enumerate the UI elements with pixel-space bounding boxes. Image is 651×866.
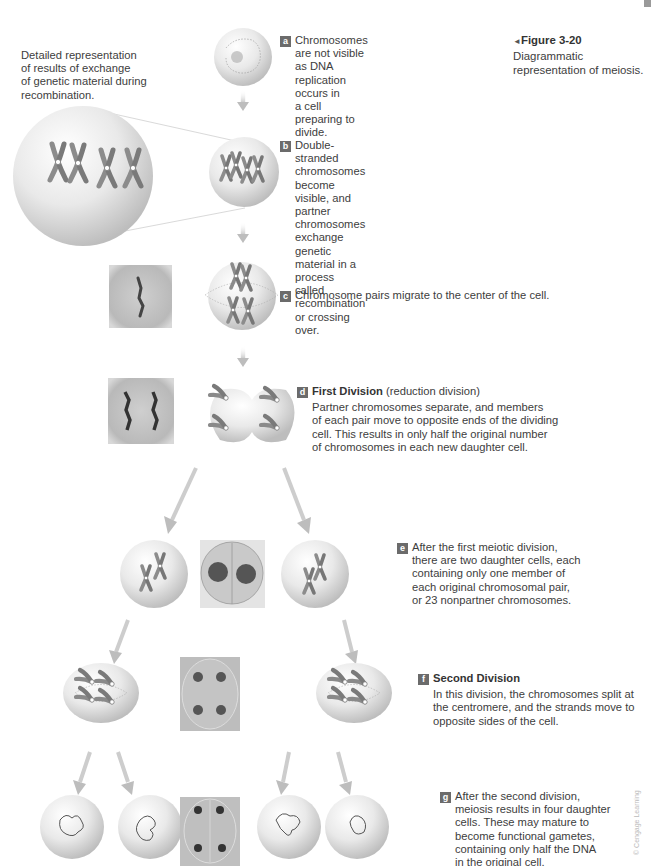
step-badge: a [280,36,291,47]
step-line: Partner chromosomes separate, and member… [312,401,558,414]
step-d: d First Division (reduction division) Pa… [297,385,312,398]
step-line: After the first meiotic division, [412,541,581,554]
step-c: c Chromosome pairs migrate to the center… [280,289,295,302]
step-badge: c [280,291,291,302]
step-f: f Second Division In this division, the … [418,672,433,685]
caption-line-1: Diagrammatic [513,50,583,62]
step-line: In this division, the chromosomes split … [433,688,634,701]
step-title: First Division [312,385,383,397]
figure-caption: ◄Figure 3-20 Diagrammatic representation… [513,33,651,77]
step-title: Second Division [433,672,520,684]
step-line: become functional gametes, [455,830,610,843]
step-line: each original chromosomal pair, [412,581,581,594]
step-g: g After the second division, meiosis res… [440,790,455,803]
step-line: containing only half the DNA [455,843,610,856]
step-line: opposite sides of the cell. [433,715,634,728]
step-badge: b [280,141,291,152]
step-badge: e [397,543,408,554]
inset-note-line: of genetic material during [21,75,147,88]
inset-note: Detailed representation of results of ex… [21,49,147,102]
cell-g-3 [257,795,321,859]
step-badge: d [297,387,308,398]
step-line: containing only one member of [412,567,581,580]
figure-label: Figure 3-20 [521,34,582,46]
step-line: or 23 nonpartner chromosomes. [412,594,581,607]
step-e: e After the first meiotic division, ther… [397,541,412,554]
step-line: of chromosomes in each new daughter cell… [312,441,558,454]
step-line: cells. These may mature to [455,816,610,829]
step-line: of each pair move to opposite ends of th… [312,414,558,427]
step-line: meiosis results in four daughter [455,803,610,816]
caption-line-2: representation of meiosis. [513,63,651,77]
step-line: the centromere, and the strands move to [433,701,634,714]
caption-pointer-icon: ◄ [513,37,521,46]
cell-e-right [281,540,349,608]
step-subtitle: (reduction division) [386,385,480,397]
step-line: After the second division, [455,790,610,803]
step-line: as DNA replication occurs in [295,60,368,100]
cell-g-1 [40,795,104,859]
step-a: a Chromosomes are not visible as DNA rep… [280,34,295,47]
cell-g-2 [118,795,182,859]
step-line: in the original cell. [455,856,610,866]
image-credit: © Cengage Learning [633,790,640,855]
cell-e-left [120,540,188,608]
step-line: Double-stranded chromosomes [295,139,365,179]
cell-b [209,137,279,207]
step-line: recombination or crossing over. [295,297,365,337]
step-badge: g [440,792,451,803]
inset-note-line: Detailed representation [21,49,147,62]
inset-note-line: recombination. [21,89,147,102]
step-line: Chromosome pairs migrate to the center o… [295,289,549,302]
step-line: Chromosomes are not visible [295,34,368,60]
inset-note-line: of results of exchange [21,62,147,75]
step-line: a cell preparing to divide. [295,100,368,140]
step-line: chromosomes exchange genetic [295,218,365,258]
step-badge: f [418,674,429,685]
cell-c [208,262,276,330]
micrograph-d [108,378,174,444]
step-line: cell. This results in only half the orig… [312,428,558,441]
step-line: become visible, and partner [295,179,365,219]
step-b: b Double-stranded chromosomes become vis… [280,139,295,152]
cell-g-4 [325,795,389,859]
step-line: there are two daughter cells, each [412,554,581,567]
